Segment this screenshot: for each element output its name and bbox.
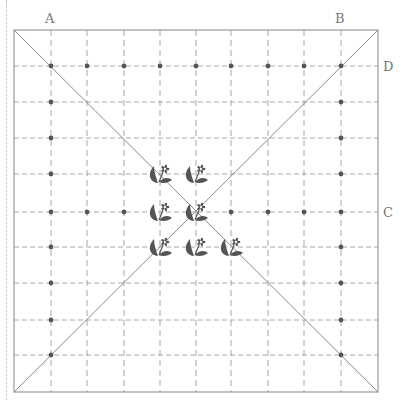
dot-marker [49,172,54,177]
petal-shape [166,206,170,208]
dot-marker [49,353,54,358]
petal-shape [166,168,170,170]
petal-shape [202,168,206,170]
label-a: A [45,12,54,25]
dot-marker [158,64,163,69]
dot-marker [49,100,54,105]
leaf-shape [221,239,229,256]
petal-shape [166,241,170,243]
dot-marker [339,64,344,69]
label-c: C [383,206,393,219]
dot-marker [122,64,127,69]
dot-marker [49,318,54,323]
dot-marker [49,136,54,141]
leaf-shape [150,204,158,221]
dot-marker [229,210,234,215]
flower-center [164,206,166,208]
dot-marker [302,210,307,215]
flower-center [200,206,202,208]
dot-marker [266,64,271,69]
label-b: B [335,12,345,25]
flower-center [235,241,237,243]
dot-marker [229,64,234,69]
dot-marker [339,210,344,215]
dot-marker [85,64,90,69]
flower-center [200,241,202,243]
dot-marker [85,210,90,215]
dot-marker [339,172,344,177]
dot-marker [49,64,54,69]
dot-marker [339,318,344,323]
petal-shape [202,241,206,243]
petal-shape [202,206,206,208]
dot-marker [49,245,54,250]
flower-icon [186,164,208,183]
petal-shape [237,241,241,243]
dot-marker [266,210,271,215]
leaf-shape [150,239,158,256]
dot-marker [339,245,344,250]
dot-marker [339,281,344,286]
dot-marker [122,210,127,215]
flower-center [200,168,202,170]
leaf-shape [150,166,158,183]
flower-center [164,168,166,170]
label-d: D [383,60,393,73]
dot-marker [339,100,344,105]
dot-marker [194,64,199,69]
flower-icon [186,237,208,256]
dot-marker [302,64,307,69]
dot-marker [49,210,54,215]
dot-marker [339,136,344,141]
flower-center [164,241,166,243]
dot-marker [339,353,344,358]
dot-marker [49,281,54,286]
board-diagram [0,0,403,407]
